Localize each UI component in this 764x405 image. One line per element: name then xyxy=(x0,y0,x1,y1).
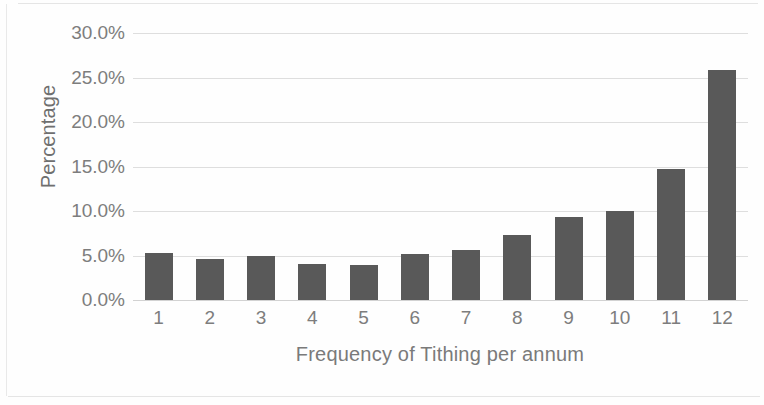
x-axis-tick-label: 12 xyxy=(712,307,733,329)
bar-slot xyxy=(697,33,748,300)
bar-series xyxy=(133,33,748,300)
bar xyxy=(555,217,583,300)
bar-slot xyxy=(441,33,492,300)
x-axis-tick-label: 2 xyxy=(205,307,216,329)
bar xyxy=(452,250,480,300)
y-axis-tick-label: 10.0% xyxy=(35,200,125,222)
bar-slot xyxy=(338,33,389,300)
y-axis-tick-label: 20.0% xyxy=(35,111,125,133)
bar-slot xyxy=(184,33,235,300)
scan-edge-top xyxy=(18,3,758,4)
scan-edge-bottom xyxy=(8,396,760,397)
x-axis-tick-label: 10 xyxy=(609,307,630,329)
x-axis-tick-label: 1 xyxy=(153,307,164,329)
x-axis-tick-label: 4 xyxy=(307,307,318,329)
x-axis-tick-label: 7 xyxy=(461,307,472,329)
bar-slot xyxy=(543,33,594,300)
bar-slot xyxy=(492,33,543,300)
x-axis-tick-labels: 123456789101112 xyxy=(133,307,748,333)
bar-slot xyxy=(646,33,697,300)
x-axis-tick-label: 6 xyxy=(410,307,421,329)
scan-edge-left xyxy=(6,4,7,396)
x-axis-tick-label: 9 xyxy=(563,307,574,329)
bar xyxy=(657,169,685,300)
x-axis-tick-label: 8 xyxy=(512,307,523,329)
bar xyxy=(196,259,224,300)
bar xyxy=(247,256,275,301)
bar-slot xyxy=(133,33,184,300)
y-axis-tick-label: 30.0% xyxy=(35,22,125,44)
bar xyxy=(298,264,326,300)
y-axis-tick-label: 0.0% xyxy=(35,289,125,311)
bar xyxy=(708,70,736,300)
bar xyxy=(503,235,531,300)
x-axis-tick-label: 3 xyxy=(256,307,267,329)
y-axis-tick-label: 25.0% xyxy=(35,67,125,89)
bar xyxy=(350,265,378,300)
y-axis-tick-label: 15.0% xyxy=(35,156,125,178)
x-axis-tick-label: 5 xyxy=(358,307,369,329)
x-axis-title: Frequency of Tithing per annum xyxy=(130,343,750,366)
bar-slot xyxy=(236,33,287,300)
chart-page: Percentage 0.0%5.0%10.0%15.0%20.0%25.0%3… xyxy=(0,0,764,405)
bar-slot xyxy=(287,33,338,300)
bar-slot xyxy=(389,33,440,300)
y-axis-tick-labels: 0.0%5.0%10.0%15.0%20.0%25.0%30.0% xyxy=(33,33,125,300)
x-axis-tick-label: 11 xyxy=(661,307,681,329)
bar-slot xyxy=(594,33,645,300)
plot-area xyxy=(133,33,748,300)
y-axis-tick-label: 5.0% xyxy=(35,245,125,267)
gridline-0.0% xyxy=(133,300,748,301)
bar xyxy=(145,253,173,300)
bar xyxy=(401,254,429,300)
bar xyxy=(606,211,634,300)
